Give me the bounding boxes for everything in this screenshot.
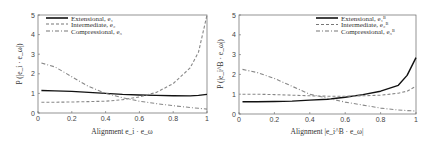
- left-ylabel: P (|e_i · e_ω|): [15, 43, 24, 85]
- y-tick-label: 0: [31, 110, 35, 117]
- y-tick-label: 1: [31, 90, 35, 97]
- series-line: [41, 15, 207, 102]
- x-tick-label: 0.8: [168, 115, 178, 122]
- right-chart: 00.20.40.60.81012345 Extensional, e₁ᴮ In…: [216, 12, 418, 137]
- right-ylabel: P (|e_i^B · e_ω|): [216, 39, 225, 89]
- left-series-lines: [41, 15, 207, 109]
- y-tick-label: 3: [232, 51, 236, 58]
- y-tick-label: 5: [31, 12, 35, 19]
- left-legend-compressional: Compressional, e₃: [71, 28, 123, 36]
- x-tick-label: 0: [237, 116, 241, 123]
- y-tick-label: 5: [232, 12, 236, 19]
- left-xlabel: Alignment e_i · e_ω: [91, 127, 152, 136]
- series-line: [243, 69, 417, 111]
- series-line: [41, 63, 207, 109]
- left-legend: Extensional, e₁ Intermediate, e₂ Compres…: [46, 15, 123, 36]
- x-tick-label: 0.6: [135, 115, 145, 122]
- left-chart: 00.20.40.60.81012345 Extensional, e₁ Int…: [15, 12, 209, 137]
- y-tick-label: 2: [31, 70, 35, 77]
- right-legend: Extensional, e₁ᴮ Intermediate, e₂ᴮ Compr…: [316, 15, 395, 36]
- y-tick-label: 4: [31, 31, 35, 38]
- x-tick-label: 0.2: [67, 115, 77, 122]
- charts-canvas: 00.20.40.60.81012345 Extensional, e₁ Int…: [0, 0, 436, 144]
- series-line: [41, 91, 207, 96]
- x-tick-label: 0: [36, 115, 40, 122]
- series-line: [243, 58, 417, 102]
- figure: 00.20.40.60.81012345 Extensional, e₁ Int…: [0, 0, 436, 144]
- y-tick-label: 3: [31, 51, 35, 58]
- right-xlabel: Alignment |e_i^B · e_ω|: [291, 127, 364, 136]
- y-tick-label: 1: [232, 91, 236, 98]
- x-tick-label: 0.2: [270, 116, 280, 123]
- left-plot-frame: [38, 15, 207, 113]
- x-tick-label: 1: [205, 115, 209, 122]
- y-tick-label: 2: [232, 71, 236, 78]
- y-tick-label: 0: [232, 111, 236, 118]
- right-series-lines: [243, 58, 417, 111]
- right-legend-compressional: Compressional, e₃ᴮ: [341, 28, 395, 36]
- x-tick-label: 1: [414, 116, 418, 123]
- y-tick-label: 4: [232, 31, 236, 38]
- x-tick-label: 0.8: [376, 116, 386, 123]
- x-tick-label: 0.6: [340, 116, 350, 123]
- x-tick-label: 0.4: [101, 115, 111, 122]
- x-tick-label: 0.4: [305, 116, 315, 123]
